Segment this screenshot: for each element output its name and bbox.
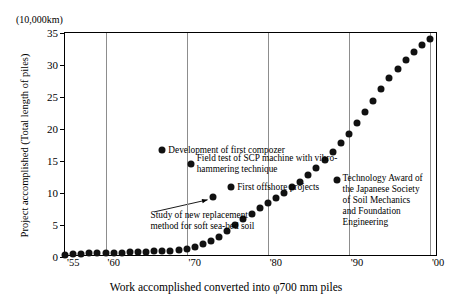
data-point [256,205,263,212]
data-point [345,130,352,137]
gridline-60 [106,33,107,255]
y-tick-label: 15 [47,155,58,167]
annotation-label-scp: Field test of SCP machine with vibro- ha… [197,153,338,175]
data-point [175,247,182,254]
x-tick-label: '60 [108,257,120,268]
x-tick-label: '00 [432,257,444,268]
chart-figure: (10,000km) Project accomplished (Total l… [0,0,452,302]
y-tick-label: 30 [47,59,58,71]
x-tick-label: '80 [270,257,282,268]
data-point [410,49,417,56]
data-point [272,195,279,202]
data-point [402,56,409,63]
data-point [264,200,271,207]
annotation-label-offshore: First offshore projects [237,181,319,192]
y-axis-unit-note: (10,000km) [16,14,63,25]
data-point [78,250,85,257]
data-point [378,86,385,93]
x-axis-title: Work accomplished converted into φ700 mm… [0,281,452,293]
y-axis-title: Project accomplished (Total length of pi… [19,26,30,266]
data-point [143,248,150,255]
data-point [86,250,93,257]
data-point [102,249,109,256]
y-tick [60,97,65,98]
x-tick-label: '70 [189,257,201,268]
data-point [110,249,117,256]
y-tick [60,193,65,194]
data-point [394,65,401,72]
data-point [362,109,369,116]
y-tick-label: 25 [47,91,58,103]
annotation-marker-offshore [228,183,235,190]
annotation-label-award: Technology Award of the Japanese Society… [343,174,423,229]
data-point [135,248,142,255]
y-tick-label: 20 [47,123,58,135]
x-tick-label: '55 [67,257,79,268]
y-tick [60,65,65,66]
data-point [159,248,166,255]
data-point [353,120,360,127]
data-point [167,247,174,254]
y-tick [60,161,65,162]
data-point [370,97,377,104]
data-point [337,140,344,147]
x-tick-label: '90 [351,257,363,268]
data-point [94,250,101,257]
plot-area: '55'60'70'80'90'0005101520253035Developm… [64,32,437,256]
data-point [426,36,433,43]
data-point [126,248,133,255]
y-tick-label: 10 [47,187,58,199]
data-point [70,251,77,258]
gridline-00 [430,33,431,255]
data-point [151,248,158,255]
y-tick-label: 0 [53,251,59,263]
data-point [199,241,206,248]
y-tick [60,33,65,34]
data-point [191,243,198,250]
annotation-marker-scp [187,160,194,167]
data-point [62,252,69,259]
y-tick [60,129,65,130]
data-point [208,238,215,245]
y-tick-label: 35 [47,27,58,39]
y-tick [60,225,65,226]
data-point [386,75,393,82]
annotation-marker-composer [159,147,166,154]
data-point [216,233,223,240]
data-point [183,245,190,252]
data-point [418,42,425,49]
annotation-label-replacement: Study of new replacement method for soft… [151,210,255,232]
data-point [118,249,125,256]
y-tick-label: 5 [53,219,59,231]
annotation-marker-replacement [209,193,216,200]
annotation-marker-award [333,177,340,184]
